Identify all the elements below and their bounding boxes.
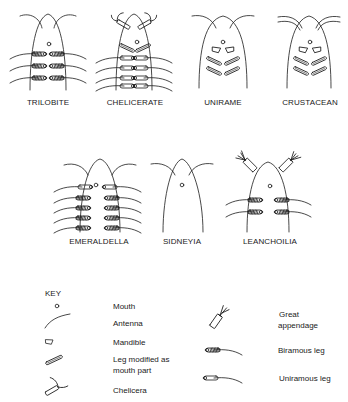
emeraldella-figure: [54, 159, 141, 233]
mandible-icon: [45, 339, 53, 345]
biramous-leg-icon: [205, 348, 242, 355]
key-label-modified-leg-1: Leg modified as: [113, 354, 169, 365]
key-label-great-appendage-1: Great: [279, 309, 299, 320]
chelicerate-figure: [96, 8, 172, 91]
key-label-uniramous-leg: Uniramous leg: [279, 373, 331, 384]
chelicera-icon: [40, 372, 68, 397]
sidneyia-figure: [151, 159, 213, 232]
crustacean-figure: [278, 16, 340, 88]
antenna-icon: [45, 314, 70, 328]
trilobite-figure: [10, 14, 86, 90]
key-label-chelicera: Chelicera: [113, 385, 147, 396]
unirame-figure: [192, 16, 254, 89]
label-crustacean: CRUSTACEAN: [282, 98, 338, 107]
key-label-antenna: Antenna: [113, 318, 143, 329]
leanchoilia-figure: [226, 151, 311, 232]
great-appendage-icon: [210, 306, 229, 330]
label-sidneyia: SIDNEYIA: [163, 237, 201, 246]
key-label-mandible: Mandible: [113, 337, 145, 348]
mouth-icon: [55, 304, 59, 308]
modified-leg-icon: [45, 355, 63, 365]
label-unirame: UNIRAME: [204, 98, 242, 107]
key-label-great-appendage-2: appendage: [278, 320, 318, 331]
key-label-mouth: Mouth: [113, 301, 135, 312]
key-title: KEY: [45, 289, 61, 298]
key-label-modified-leg-2: mouth part: [113, 365, 151, 376]
key-label-biramous-leg: Biramous leg: [278, 345, 325, 356]
label-chelicerate: CHELICERATE: [107, 98, 164, 107]
label-emeraldella: EMERALDELLA: [69, 237, 128, 246]
label-trilobite: TRILOBITE: [27, 98, 69, 107]
label-leanchoilia: LEANCHOILIA: [243, 237, 297, 246]
uniramous-leg-icon: [203, 376, 242, 383]
